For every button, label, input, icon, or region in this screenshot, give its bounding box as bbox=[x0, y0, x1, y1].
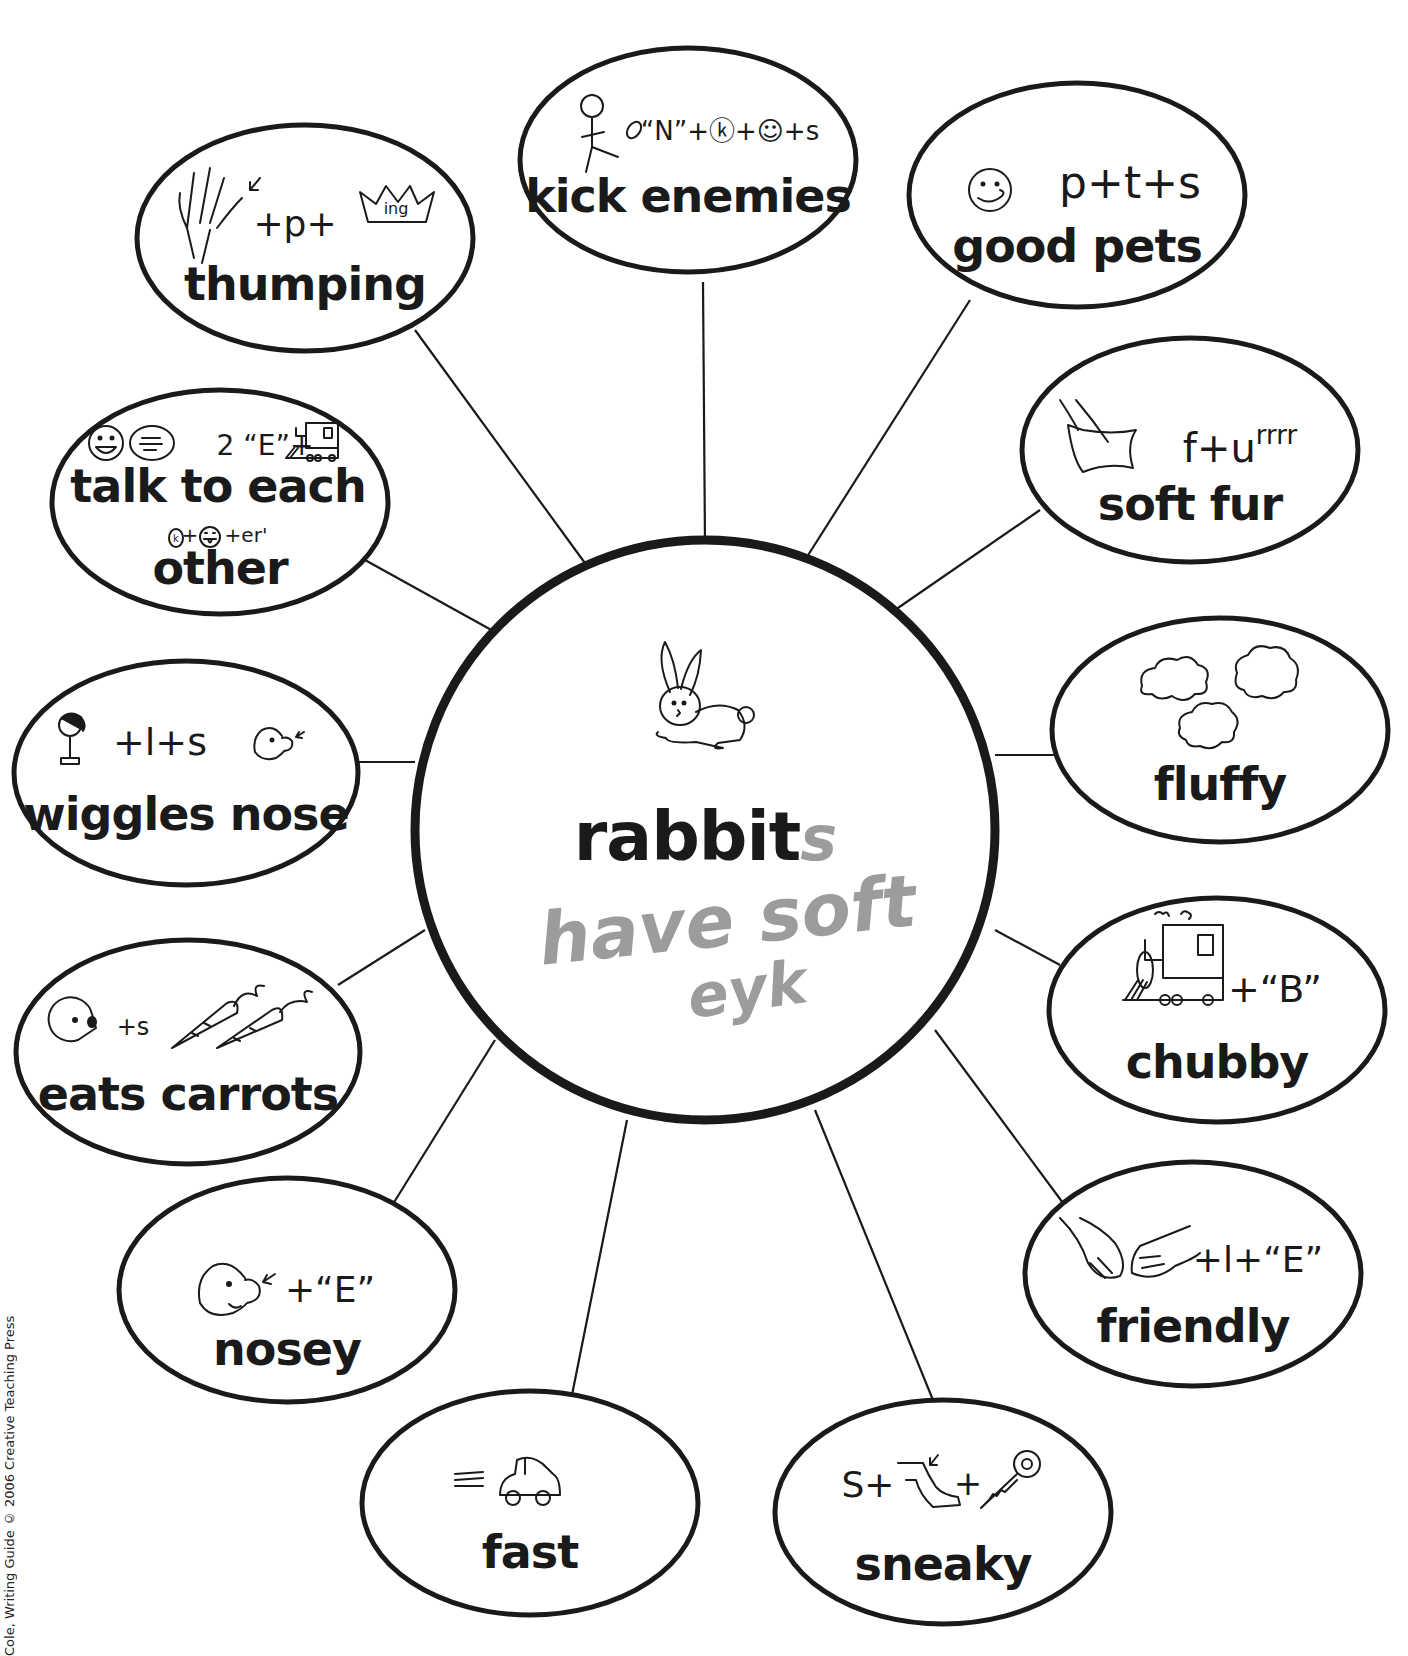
good-pets-rebus: p+t+s bbox=[1059, 157, 1201, 208]
bubble-eats-carrots: +s eats carrots bbox=[16, 940, 360, 1164]
bubble-soft-fur: f+urrrr soft fur bbox=[1022, 338, 1358, 562]
bubble-label: fast bbox=[482, 1525, 578, 1579]
bubble-label: friendly bbox=[1096, 1299, 1290, 1353]
bubble-fluffy: fluffy bbox=[1052, 618, 1388, 842]
spoke-friendly bbox=[935, 1030, 1063, 1203]
bubble-good-pets: p+t+s good pets bbox=[909, 83, 1245, 307]
spoke-fast bbox=[570, 1120, 627, 1405]
bubble-sneaky: S+ + sneaky bbox=[775, 1400, 1111, 1624]
center-printed-word: rabbit bbox=[574, 797, 801, 876]
nosey-rebus: +“E” bbox=[285, 1269, 375, 1310]
spoke-nosey bbox=[383, 1040, 495, 1220]
thumping-rebus-text: +p+ bbox=[253, 203, 336, 244]
spoke-kick-enemies bbox=[703, 282, 705, 545]
spoke-chubby bbox=[995, 930, 1060, 965]
spoke-sneaky bbox=[815, 1110, 935, 1405]
sneaky-rebus-prefix: S+ bbox=[841, 1464, 894, 1505]
bubble-label: kick enemies bbox=[525, 169, 851, 223]
spoke-good-pets bbox=[805, 300, 970, 560]
svg-text:ing: ing bbox=[384, 199, 409, 218]
bubble-nosey: +“E” nosey bbox=[119, 1178, 455, 1402]
bubble-label: fluffy bbox=[1154, 757, 1288, 811]
bubble-kick-enemies: “N”+ⓚ+☺+s kick enemies bbox=[520, 48, 856, 272]
bubble-label: sneaky bbox=[855, 1537, 1033, 1591]
web-diagram: rabbits have soft eyk +p+ ing thumping “… bbox=[0, 0, 1408, 1656]
bubble-chubby: +“B” chubby bbox=[1049, 898, 1385, 1122]
bubble-label-line1: talk to each bbox=[70, 459, 365, 513]
bubble-thumping: +p+ ing thumping bbox=[137, 125, 473, 351]
bubble-label: soft fur bbox=[1098, 477, 1284, 531]
spoke-soft-fur bbox=[895, 510, 1040, 610]
wiggles-nose-rebus: +l+s bbox=[113, 720, 207, 764]
spoke-talk bbox=[365, 560, 495, 632]
sneaky-rebus-plus: + bbox=[954, 1463, 983, 1503]
bubble-label: eats carrots bbox=[38, 1067, 338, 1121]
bubble-talk-to-each-other: 2 “E”+ talk to each k + +er' other bbox=[52, 390, 388, 614]
bubble-label: chubby bbox=[1126, 1035, 1310, 1089]
center-label: rabbits bbox=[574, 797, 837, 876]
center-hub: rabbits have soft eyk bbox=[415, 540, 995, 1120]
chubby-rebus: +“B” bbox=[1228, 967, 1322, 1011]
bubble-friendly: +l+“E” friendly bbox=[1025, 1162, 1361, 1386]
spoke-eats-carrots bbox=[338, 930, 425, 985]
friendly-rebus: +l+“E” bbox=[1193, 1239, 1323, 1280]
bubble-fast: fast bbox=[362, 1391, 698, 1615]
kick-enemies-rebus: “N”+ⓚ+☺+s bbox=[641, 116, 819, 146]
bubble-wiggles-nose: +l+s wiggles nose bbox=[14, 661, 358, 885]
bubble-label: nosey bbox=[213, 1322, 362, 1376]
eats-carrots-rebus: +s bbox=[117, 1013, 150, 1041]
bubble-label: thumping bbox=[184, 257, 426, 311]
bubble-label: good pets bbox=[952, 219, 1202, 273]
handwritten-s: s bbox=[800, 802, 836, 875]
spoke-thumping bbox=[415, 330, 590, 570]
bubble-label: wiggles nose bbox=[23, 787, 348, 841]
bubble-label-line2: other bbox=[152, 541, 289, 595]
